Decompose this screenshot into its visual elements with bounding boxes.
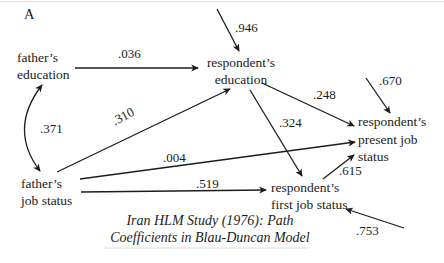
coef-correlation-fathers-education-fathers-job-status: .371 xyxy=(40,121,63,137)
arrow-fathers-job-status-to-respondents-education xyxy=(57,89,230,172)
coef-fathers-job-status-to-present-job-status: .004 xyxy=(163,150,186,166)
node-respondents-education: respondent’s education xyxy=(199,54,283,88)
coef-first-job-status-to-present-job-status: .615 xyxy=(339,163,362,179)
coef-fathers-job-status-to-first-job-status: .519 xyxy=(196,176,219,192)
panel-label: A xyxy=(24,6,34,23)
path-diagram-figure: A father’s education respondent’s educat… xyxy=(0,0,444,263)
coef-fathers-education-to-respondents-education: .036 xyxy=(118,46,141,62)
coef-respondents-education-to-present-job-status: .248 xyxy=(313,87,336,103)
arrow-respondents-education-to-present-job-status xyxy=(262,83,354,126)
node-respondents-first-job-status: respondent’s first job status xyxy=(271,179,348,213)
node-respondents-present-job-status: respondent’s present job status xyxy=(358,113,426,166)
coef-respondents-education-to-first-job-status: .324 xyxy=(279,115,302,131)
arrow-fathers-job-status-to-first-job-status xyxy=(81,190,266,192)
node-fathers-education: father’s education xyxy=(17,49,69,83)
node-fathers-job-status: father’s job status xyxy=(21,175,72,209)
arrow-respondents-education-to-first-job-status xyxy=(250,90,302,176)
coef-residual-to-first-job-status: .753 xyxy=(356,223,379,239)
coef-residual-to-respondents-education: .946 xyxy=(235,20,258,36)
arrow-fathers-job-status-to-present-job-status xyxy=(80,142,355,179)
coef-residual-to-present-job-status: .670 xyxy=(379,73,402,89)
figure-caption: Iran HLM Study (1976): Path Coefficients… xyxy=(90,213,330,246)
